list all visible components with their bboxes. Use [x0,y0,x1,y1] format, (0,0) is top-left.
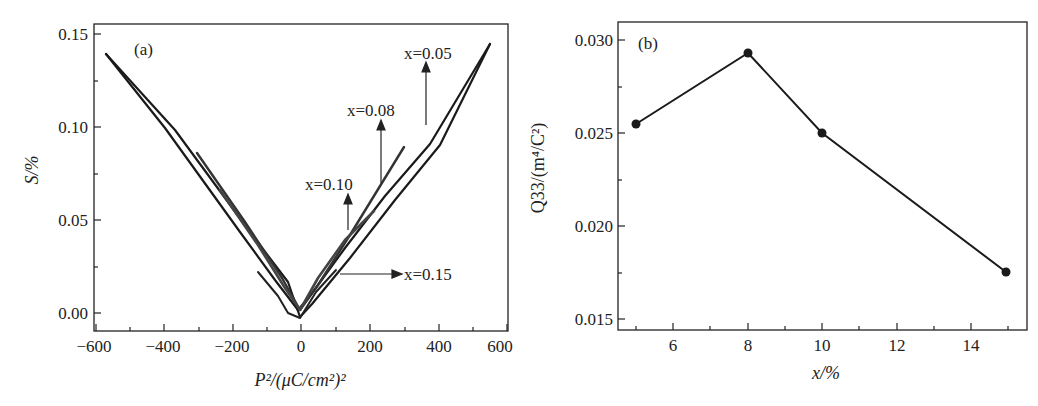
panel-b-ylabel: Q33/(m⁴/C²) [528,123,549,214]
panel-b-label: (b) [638,34,658,53]
panel-a-xtick-label: 200 [357,337,383,356]
panel-a-ytick-label: 0.00 [58,304,88,323]
panel-a-frame [94,24,508,331]
panel-a-ylabel: S/% [22,156,42,185]
panel-a: 0.15 0.10 0.05 0.00 −600 −400 −200 0 200… [22,24,513,391]
annotation-x-0-10: x=0.10 [305,175,353,194]
panel-b-yticks [618,40,625,319]
panel-b-xticks [636,323,1008,330]
panel-a-xtick-label: 600 [487,337,513,356]
panel-b-xtick-label: 8 [744,336,753,355]
panel-b-xtick-label: 10 [814,336,831,355]
panel-a-ytick-label: 0.15 [58,25,88,44]
panel-b-xlabel: x/% [811,363,840,383]
data-point [632,120,641,129]
panel-b-xtick-label: 14 [963,336,981,355]
panel-a-label: (a) [134,40,153,59]
panel-a-xticks [96,324,507,331]
annotation-x-0-05: x=0.05 [404,44,452,63]
panel-a-xtick-label: −400 [145,337,180,356]
data-point [744,49,753,58]
panel-a-xtick-label: 400 [426,337,452,356]
panel-b-ytick-label: 0.020 [575,217,613,236]
panel-a-xlabel: P²/(μC/cm²)² [253,370,346,391]
figure: 0.15 0.10 0.05 0.00 −600 −400 −200 0 200… [0,0,1038,406]
panel-a-ytick-label: 0.05 [58,211,88,230]
panel-b: 0.030 0.025 0.020 0.015 6 8 10 12 14 x/%… [528,22,1027,383]
panel-a-annotation-arrows [340,62,430,278]
panel-a-ytick-label: 0.10 [58,118,88,137]
panel-a-xtick-label: −600 [76,337,111,356]
panel-b-xtick-label: 6 [669,336,678,355]
q33-line [636,53,1006,272]
panel-a-xtick-label: 0 [297,337,306,356]
data-point [818,129,827,138]
panel-b-ytick-label: 0.015 [575,310,613,329]
panel-b-ytick-label: 0.030 [575,31,613,50]
panel-b-xtick-label: 12 [889,336,906,355]
annotation-x-0-15: x=0.15 [404,265,452,284]
panel-b-ytick-label: 0.025 [575,124,613,143]
panel-a-yticks [94,34,101,313]
panel-a-xtick-label: −200 [214,337,249,356]
panel-b-frame [618,22,1027,330]
annotation-x-0-08: x=0.08 [347,101,395,120]
q33-markers [632,49,1011,277]
curve-x-0-10 [220,190,374,310]
data-point [1002,268,1011,277]
